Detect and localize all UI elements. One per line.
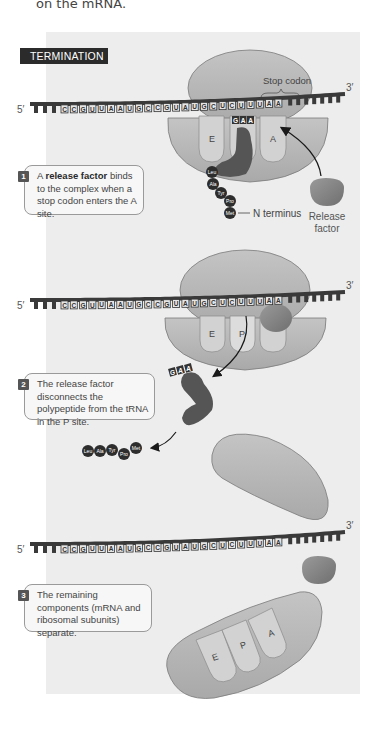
nucleotide: U	[99, 545, 104, 552]
nucleotide: A	[109, 301, 114, 308]
three-prime-label: 3′	[346, 520, 354, 531]
step-3-callout: 3 The remaining components (mRNA and rib…	[24, 584, 152, 632]
nucleotide: U	[257, 298, 262, 305]
three-prime-label: 3′	[346, 280, 354, 291]
nucleotide: C	[211, 103, 216, 110]
nucleotide: G	[164, 104, 169, 111]
nucleotide: C	[71, 546, 76, 553]
step2-ribosome: E P	[165, 250, 326, 370]
step-3-badge: 3	[18, 590, 29, 601]
site-a-label: A	[270, 134, 276, 144]
nucleotide: G	[136, 545, 141, 552]
release-factor-separated	[302, 556, 336, 584]
nucleotide: A	[183, 104, 188, 111]
five-prime-label: 5′	[17, 544, 25, 555]
nucleotide: G	[164, 301, 169, 308]
nucleotide: A	[276, 539, 281, 546]
step-2-badge: 2	[18, 379, 29, 390]
release-factor-label-1: Release	[309, 211, 346, 222]
nucleotide: A	[276, 100, 281, 107]
nucleotide: U	[239, 298, 244, 305]
release-factor-in-a-site	[260, 304, 292, 332]
nucleotide: U	[257, 540, 262, 547]
nucleotide: U	[248, 298, 253, 305]
nucleotide: U	[174, 300, 179, 307]
three-prime-label: 3′	[346, 82, 354, 93]
nucleotide: C	[146, 301, 151, 308]
nucleotide: A	[118, 545, 123, 552]
nucleotide: A	[109, 545, 114, 552]
nucleotide: G	[136, 105, 141, 112]
nucleotide: C	[71, 106, 76, 113]
stop-codon-label: Stop codon	[263, 75, 311, 86]
nucleotide: G	[81, 302, 86, 309]
nucleotide: U	[220, 299, 225, 306]
nucleotide: G	[201, 300, 206, 307]
nucleotide: U	[174, 104, 179, 111]
nucleotide: U	[192, 300, 197, 307]
nucleotide: A	[267, 100, 272, 107]
mrna-strand-3: CCGUUAAUGCCGUAUGCUCUUUAA5′3′	[17, 520, 354, 555]
nucleotide: G	[201, 103, 206, 110]
svg-text:Tyr: Tyr	[218, 190, 225, 196]
nucleotide: C	[211, 299, 216, 306]
nucleotide: C	[230, 299, 235, 306]
svg-text:A: A	[186, 365, 191, 372]
nucleotide: U	[192, 543, 197, 550]
large-subunit-separated	[212, 434, 328, 520]
release-factor-shape	[310, 178, 344, 206]
nucleotide: G	[136, 301, 141, 308]
nucleotide: U	[127, 301, 132, 308]
svg-text:Met: Met	[226, 210, 235, 216]
nucleotide: U	[90, 106, 95, 113]
nucleotide: U	[239, 102, 244, 109]
nucleotide: A	[118, 105, 123, 112]
nucleotide: C	[155, 104, 160, 111]
step2-polypeptide: Leu Ala Tyr Pro Met	[82, 442, 142, 460]
nucleotide: A	[276, 297, 281, 304]
nucleotide: A	[267, 297, 272, 304]
svg-text:Leu: Leu	[84, 448, 93, 454]
arrow-polypeptide-release	[152, 432, 176, 448]
five-prime-label: 5′	[17, 300, 25, 311]
svg-text:Leu: Leu	[208, 169, 217, 175]
freed-trna-shape	[181, 372, 213, 425]
nucleotide: U	[248, 101, 253, 108]
nucleotide: G	[81, 546, 86, 553]
nucleotide: C	[62, 546, 67, 553]
svg-text:P: P	[239, 329, 245, 339]
svg-text:Tyr: Tyr	[109, 447, 116, 453]
nucleotide: A	[183, 543, 188, 550]
nucleotide: C	[62, 106, 67, 113]
svg-text:G: G	[233, 117, 238, 124]
nucleotide: G	[201, 543, 206, 550]
step3-small-subunit: E P A	[167, 592, 322, 699]
site-e-label: E	[209, 134, 215, 144]
step-2-callout: 2 The release factor disconnects the pol…	[24, 373, 155, 420]
release-factor-label-2: factor	[314, 223, 340, 234]
nucleotide: U	[257, 101, 262, 108]
nucleotide: U	[99, 105, 104, 112]
nucleotide: U	[90, 302, 95, 309]
nucleotide: U	[174, 544, 179, 551]
step-1-callout: 1 A release factor binds to the complex …	[24, 165, 144, 215]
nucleotide: G	[164, 544, 169, 551]
nucleotide: C	[155, 544, 160, 551]
nucleotide: C	[211, 542, 216, 549]
nucleotide: U	[99, 301, 104, 308]
svg-text:Ala: Ala	[96, 448, 103, 454]
nucleotide: C	[155, 301, 160, 308]
svg-text:Ala: Ala	[209, 181, 216, 187]
svg-text:E: E	[209, 329, 215, 339]
nucleotide: A	[183, 300, 188, 307]
step1-anticodon: G A A	[232, 116, 254, 124]
nucleotide: C	[146, 544, 151, 551]
nucleotide: C	[71, 302, 76, 309]
nucleotide: U	[127, 545, 132, 552]
nucleotide: C	[62, 302, 67, 309]
step-1-badge: 1	[18, 171, 29, 182]
nucleotide: U	[239, 541, 244, 548]
nucleotide: A	[267, 539, 272, 546]
nucleotide: U	[220, 102, 225, 109]
n-terminus-label: N terminus	[253, 208, 301, 219]
